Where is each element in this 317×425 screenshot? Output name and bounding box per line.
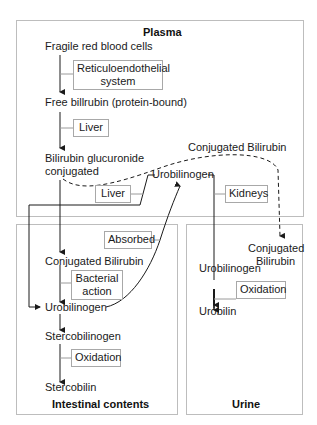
kidneys-tag: Kidneys <box>225 185 268 203</box>
urobilinogen-urine-label: Urobilinogen <box>199 262 261 275</box>
fragile-red-blood-cells-label: Fragile red blood cells <box>45 40 153 53</box>
oxidation-urine-tag: Oxidation <box>236 281 286 299</box>
bilirubin-glucuronide-label: Bilirubin glucuronide <box>45 152 144 165</box>
urobilinogen-plasma-label: Urobilinogen <box>152 168 214 181</box>
absorbed-tag: Absorbed <box>104 231 152 249</box>
reticuloendothelial-system-tag: Reticuloendothelial system <box>73 60 163 90</box>
urobilinogen-intestine-label: Urobilinogen <box>45 301 107 314</box>
bacterial-action-tag: Bacterial action <box>71 270 123 300</box>
intestinal-contents-title: Intestinal contents <box>52 398 149 411</box>
free-bilirubin-label: Free billrubin (protein-bound) <box>45 96 187 109</box>
plasma-title: Plasma <box>143 26 182 39</box>
liver-tag-1: Liver <box>73 119 109 137</box>
oxidation-intestine-tag: Oxidation <box>71 349 121 367</box>
urobilin-label: Urobilin <box>199 305 236 318</box>
conjugated-bilirubin-urine-line1: Conjugated <box>248 242 304 255</box>
reticuloendothelial-line1: Reticuloendothelial <box>77 62 159 75</box>
conjugated-bilirubin-plasma-label: Conjugated Bilirubin <box>188 141 286 154</box>
conjugated-bilirubin-intestine-label: Conjugated Bilirubin <box>45 255 143 268</box>
bacterial-line1: Bacterial <box>75 272 119 285</box>
bilirubin-glucuronide-conjugated-label: conjugated <box>45 165 99 178</box>
stercobilinogen-label: Stercobilinogen <box>45 330 121 343</box>
stercobilin-label: Stercobilin <box>45 381 96 394</box>
reticuloendothelial-line2: system <box>77 75 159 88</box>
liver-tag-2: Liver <box>95 185 131 203</box>
conjugated-bilirubin-urine-line2: Bilirubin <box>256 255 295 268</box>
bacterial-line2: action <box>75 285 119 298</box>
urine-title: Urine <box>232 398 260 411</box>
